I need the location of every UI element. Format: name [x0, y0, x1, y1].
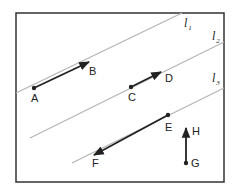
point-label-E: E	[165, 121, 172, 133]
point-label-G: G	[191, 157, 200, 169]
points: ABCDEFGH	[31, 65, 200, 169]
point-label-A: A	[31, 92, 39, 104]
line-l2	[30, 42, 224, 138]
point-dot-E	[166, 113, 170, 117]
point-dot-A	[32, 86, 36, 90]
point-label-H: H	[192, 125, 200, 137]
line-label-l2: l2	[212, 29, 220, 45]
parallel-lines-vector-diagram: l1l2l3 ABCDEFGH	[0, 0, 232, 189]
line-l1	[16, 13, 182, 93]
line-label-l1: l1	[184, 16, 192, 32]
point-label-B: B	[89, 65, 96, 77]
vector-CD	[131, 72, 161, 87]
point-label-C: C	[128, 91, 136, 103]
vector-AB	[34, 62, 89, 88]
point-dot-C	[129, 85, 133, 89]
point-dot-G	[184, 161, 188, 165]
line-label-l3: l3	[212, 71, 220, 87]
point-label-D: D	[165, 72, 173, 84]
vectors	[34, 62, 186, 163]
vector-EF	[94, 115, 168, 155]
point-label-F: F	[92, 157, 99, 169]
